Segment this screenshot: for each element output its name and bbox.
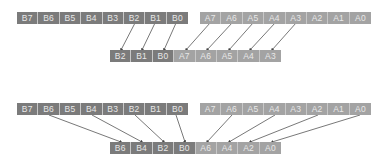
bit-cell: B7 <box>17 12 38 24</box>
bit-cell: B2 <box>124 103 145 115</box>
bit-cell: A0 <box>350 12 371 24</box>
bit-cell: B0 <box>167 103 188 115</box>
bit-cell: A3 <box>286 12 307 24</box>
bit-cell: B0 <box>153 50 174 62</box>
bit-cell: B4 <box>81 103 102 115</box>
bit-cell: A7 <box>174 50 195 62</box>
bit-cell: B0 <box>174 142 195 154</box>
bit-cell: B3 <box>103 12 124 24</box>
bit-cell: B4 <box>131 142 152 154</box>
top-source-a-register: A7 A6 A5 A4 A3 A2 A1 A0 <box>200 12 371 24</box>
bit-cell: B2 <box>124 12 145 24</box>
bit-cell: A2 <box>307 12 328 24</box>
bit-cell: B0 <box>167 12 188 24</box>
bit-cell: A7 <box>200 103 221 115</box>
bit-cell: A4 <box>217 142 238 154</box>
bit-cell: A3 <box>286 103 307 115</box>
bit-cell: A6 <box>221 103 242 115</box>
bit-cell: B6 <box>38 12 59 24</box>
bit-cell: A6 <box>196 50 217 62</box>
bit-cell: A7 <box>200 12 221 24</box>
bit-cell: B1 <box>145 12 166 24</box>
bit-cell: B5 <box>60 12 81 24</box>
bit-cell: A2 <box>307 103 328 115</box>
bit-cell: A0 <box>260 142 281 154</box>
bit-cell: A1 <box>328 12 349 24</box>
bit-cell: B6 <box>38 103 59 115</box>
bit-cell: B2 <box>110 50 131 62</box>
bit-cell: A6 <box>221 12 242 24</box>
top-arrows <box>121 23 296 50</box>
bit-cell: A1 <box>328 103 349 115</box>
bit-cell: A5 <box>243 103 264 115</box>
bit-cell: A4 <box>238 50 259 62</box>
bit-cell: A4 <box>264 103 285 115</box>
bottom-source-b-register: B7 B6 B5 B4 B3 B2 B1 B0 <box>17 103 188 115</box>
bit-cell: B4 <box>81 12 102 24</box>
bit-cell: A5 <box>217 50 238 62</box>
bit-cell: B5 <box>60 103 81 115</box>
bit-cell: A6 <box>196 142 217 154</box>
bit-cell: A2 <box>238 142 259 154</box>
top-source-b-register: B7 B6 B5 B4 B3 B2 B1 B0 <box>17 12 188 24</box>
connector-arrows <box>0 0 388 160</box>
bottom-source-a-register: A7 A6 A5 A4 A3 A2 A1 A0 <box>200 103 371 115</box>
bit-cell: B3 <box>103 103 124 115</box>
bit-cell: A5 <box>243 12 264 24</box>
bit-cell: B7 <box>17 103 38 115</box>
bit-cell: B6 <box>110 142 131 154</box>
bit-cell: A0 <box>350 103 371 115</box>
bit-cell: A3 <box>260 50 281 62</box>
bit-cell: B1 <box>131 50 152 62</box>
bottom-arrows <box>49 115 360 142</box>
bit-cell: B2 <box>153 142 174 154</box>
bit-cell: A4 <box>264 12 285 24</box>
bottom-result-register: B6 B4 B2 B0 A6 A4 A2 A0 <box>110 142 281 154</box>
top-result-register: B2 B1 B0 A7 A6 A5 A4 A3 <box>110 50 281 62</box>
bit-cell: B1 <box>145 103 166 115</box>
